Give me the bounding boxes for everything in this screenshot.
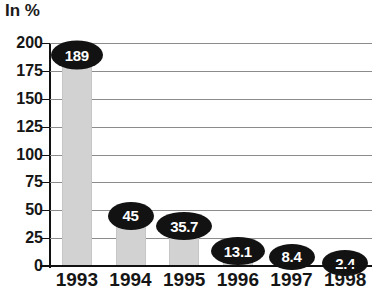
- data-label: 13.1: [211, 237, 265, 265]
- y-tick-label: 25: [25, 230, 43, 246]
- x-tick-label: 1996: [217, 270, 259, 289]
- data-label: 45: [108, 202, 154, 230]
- data-label: 189: [51, 41, 103, 70]
- x-tick-label: 1993: [56, 270, 98, 289]
- y-tick-label: 100: [16, 147, 43, 163]
- gridline: [50, 127, 372, 128]
- gridline: [50, 210, 372, 211]
- bar[interactable]: [62, 55, 92, 266]
- y-tick-label: 125: [16, 119, 43, 135]
- x-axis-line: [40, 265, 372, 267]
- x-tick-label: 1995: [163, 270, 205, 289]
- gridline: [50, 238, 372, 239]
- bar-chart: In % 2001751501251007550250 1894535.713.…: [0, 0, 374, 304]
- y-tick-label: 75: [25, 174, 43, 190]
- y-tick-label: 50: [25, 202, 43, 218]
- x-tick-label: 1997: [270, 270, 312, 289]
- plot-area: [50, 43, 372, 266]
- chart-title: In %: [5, 1, 40, 21]
- gridline: [50, 43, 372, 44]
- x-tick-label: 1994: [109, 270, 151, 289]
- data-label: 35.7: [156, 212, 212, 240]
- y-tick-label: 200: [16, 35, 43, 51]
- y-tick-label: 175: [16, 63, 43, 79]
- x-tick-label: 1998: [324, 270, 366, 289]
- gridline: [50, 182, 372, 183]
- gridline: [50, 99, 372, 100]
- gridline: [50, 155, 372, 156]
- gridline: [50, 71, 372, 72]
- y-tick-label: 150: [16, 91, 43, 107]
